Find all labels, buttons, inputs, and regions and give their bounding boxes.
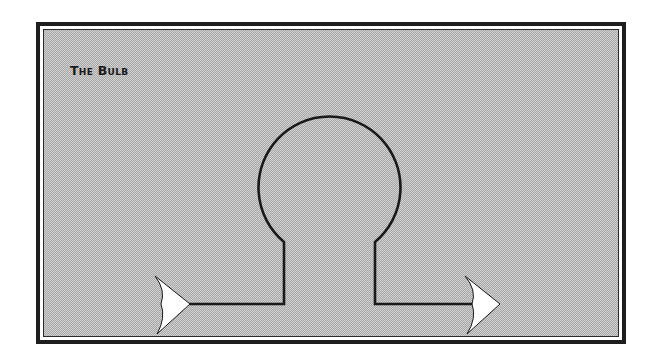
circuit-drawing — [0, 0, 656, 361]
input-arrow-icon — [155, 276, 190, 334]
bulb-outline — [189, 116, 473, 304]
